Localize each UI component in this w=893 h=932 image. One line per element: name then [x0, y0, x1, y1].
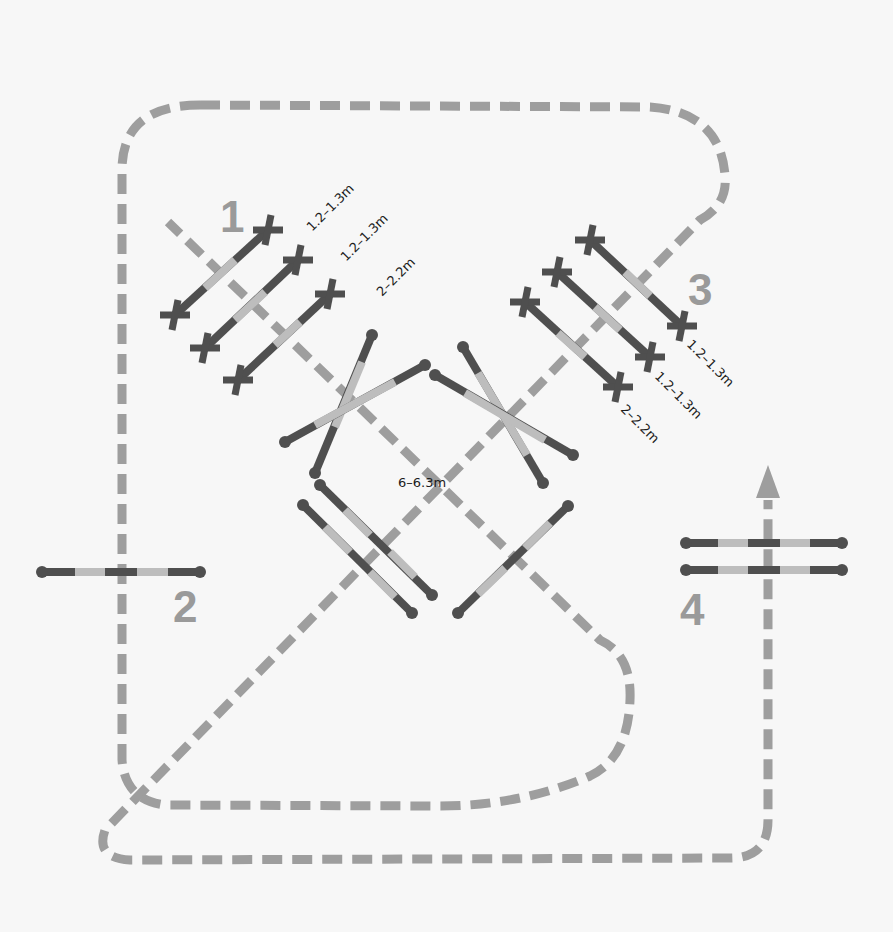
distance-label: 1.2–1.3m [684, 337, 737, 390]
distance-label: 2–2.2m [374, 254, 419, 299]
fence-number-4: 4 [680, 585, 705, 634]
distance-label: 1.2–1.3m [652, 369, 705, 422]
fence-number-2: 2 [173, 582, 197, 631]
fence-number-1: 1 [220, 192, 244, 241]
distance-label: 2–2.2m [618, 402, 663, 447]
fence-number-3: 3 [688, 265, 712, 314]
distance-label: 1.2–1.3m [338, 211, 391, 264]
route-left-loop [122, 105, 630, 806]
direction-arrow-icon [756, 465, 780, 498]
distance-label: 1.2–1.3m [304, 181, 357, 234]
center-distance-label: 6–6.3m [398, 475, 446, 490]
course-diagram: 1 1.2–1.3m 1.2–1.3m 2–2.2m 3 1.2–1.3m 1.… [0, 0, 893, 932]
